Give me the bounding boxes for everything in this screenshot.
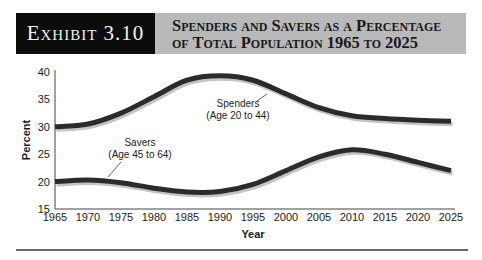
x-axis-ticks: 1965197019751980198519901995200020052010…	[43, 211, 463, 223]
x-tick-label: 1970	[76, 211, 100, 223]
y-tick-label: 40	[38, 66, 50, 78]
series-lines	[55, 76, 453, 195]
spenders-annotation: Spenders (Age 20 to 44)	[206, 94, 269, 121]
spenders-age-label: (Age 20 to 44)	[206, 110, 269, 121]
line-chart: 152025303540 196519701975198019851990199…	[0, 0, 482, 260]
x-tick-label: 1980	[142, 211, 166, 223]
x-tick-label: 1990	[208, 211, 232, 223]
x-axis-label: Year	[241, 228, 265, 240]
x-tick-label: 2000	[274, 211, 298, 223]
x-tick-label: 2010	[340, 211, 364, 223]
spenders-label: Spenders	[217, 98, 260, 109]
x-tick-label: 1995	[241, 211, 265, 223]
x-tick-label: 1985	[175, 211, 199, 223]
y-axis-label: Percent	[20, 119, 32, 160]
y-axis-ticks: 152025303540	[38, 66, 50, 215]
y-tick-label: 25	[38, 148, 50, 160]
x-tick-label: 1965	[43, 211, 67, 223]
bottom-rule	[16, 249, 468, 251]
x-tick-label: 2020	[406, 211, 430, 223]
savers-label: Savers	[124, 137, 155, 148]
y-tick-label: 35	[38, 93, 50, 105]
x-tick-label: 2025	[439, 211, 463, 223]
x-tick-label: 1975	[109, 211, 133, 223]
savers-age-label: (Age 45 to 64)	[108, 149, 171, 160]
savers-annotation: Savers (Age 45 to 64)	[108, 137, 172, 177]
savers-pointer	[108, 162, 121, 177]
x-tick-label: 2005	[307, 211, 331, 223]
y-tick-label: 30	[38, 121, 50, 133]
x-tick-label: 2015	[373, 211, 397, 223]
y-tick-label: 20	[38, 176, 50, 188]
